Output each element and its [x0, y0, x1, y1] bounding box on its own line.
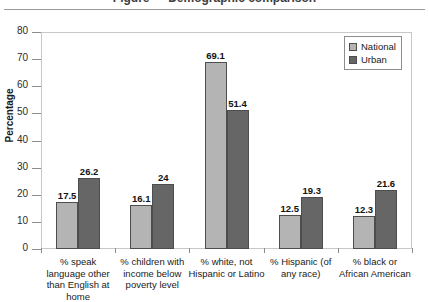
bar-national[interactable]: 17.5 [56, 202, 78, 249]
bar-value-label: 17.5 [58, 190, 77, 201]
y-axis-tick: 0 [32, 249, 41, 250]
bar-national[interactable]: 12.3 [353, 216, 375, 249]
y-axis-tick-label: 60 [17, 79, 28, 90]
y-axis-tick-label: 30 [17, 161, 28, 172]
y-axis-tick-label: 70 [17, 52, 28, 63]
bar-value-label: 26.2 [80, 166, 99, 177]
y-axis-tick: 10 [32, 222, 41, 223]
bar-urban[interactable]: 26.2 [78, 178, 100, 249]
x-axis-tick [115, 248, 116, 253]
y-axis-tick: 80 [32, 32, 41, 33]
legend-item-national[interactable]: National [349, 40, 396, 53]
bar-value-label: 19.3 [302, 185, 321, 196]
bar-value-label: 51.4 [228, 98, 247, 109]
category-label-line: % black or [332, 256, 418, 268]
y-axis-tick: 20 [32, 195, 41, 196]
legend-label-national: National [361, 41, 396, 52]
y-axis-tick: 70 [32, 59, 41, 60]
bar-national[interactable]: 16.1 [130, 205, 152, 249]
x-axis-tick [264, 248, 265, 253]
figure-caption: Figure — Demographic comparison [0, 0, 429, 5]
legend-item-urban[interactable]: Urban [349, 53, 396, 66]
chart-legend: National Urban [344, 36, 402, 70]
legend-swatch-urban-icon [349, 56, 357, 64]
y-axis-tick-label: 20 [17, 188, 28, 199]
x-axis-tick [189, 248, 190, 253]
y-axis-tick-label: 0 [22, 242, 28, 253]
y-axis-tick: 60 [32, 86, 41, 87]
bar-national[interactable]: 69.1 [205, 62, 227, 249]
bar-value-label: 16.1 [132, 193, 151, 204]
y-axis-tick: 30 [32, 168, 41, 169]
y-axis-tick: 50 [32, 113, 41, 114]
bar-urban[interactable]: 19.3 [301, 197, 323, 249]
category-label-line: poverty level [109, 279, 195, 291]
caption-clip: Figure — Demographic comparison [0, 0, 429, 9]
bar-chart: Percentage 01020304050607080 17.526.216.… [0, 14, 429, 286]
x-axis-tick [41, 248, 42, 253]
y-axis-title: Percentage [4, 73, 15, 159]
bar-urban[interactable]: 24 [152, 184, 174, 249]
bar-value-label: 21.6 [377, 178, 396, 189]
bar-value-label: 12.5 [280, 203, 299, 214]
legend-label-urban: Urban [361, 54, 387, 65]
bar-value-label: 24 [158, 172, 169, 183]
category-label: % black orAfrican American [332, 256, 418, 279]
bar-urban[interactable]: 51.4 [227, 110, 249, 249]
y-axis-tick-label: 10 [17, 215, 28, 226]
bar-value-label: 69.1 [206, 50, 225, 61]
x-axis-tick [412, 248, 413, 253]
category-label-line: African American [332, 268, 418, 280]
x-axis-tick [338, 248, 339, 253]
bar-urban[interactable]: 21.6 [375, 190, 397, 249]
bar-national[interactable]: 12.5 [279, 215, 301, 249]
y-axis-tick-label: 40 [17, 134, 28, 145]
y-axis-tick: 40 [32, 141, 41, 142]
y-axis-tick-label: 80 [17, 25, 28, 36]
y-axis-tick-label: 50 [17, 106, 28, 117]
legend-swatch-national-icon [349, 43, 357, 51]
header-divider [4, 9, 425, 10]
bar-value-label: 12.3 [355, 204, 374, 215]
